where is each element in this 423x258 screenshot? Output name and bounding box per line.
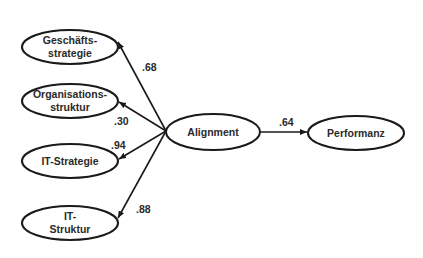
- node-alignment: Alignment: [166, 114, 260, 150]
- node-label: Alignment: [187, 126, 239, 138]
- edge-label-geschaeftsstrategie: .68: [142, 61, 157, 73]
- node-performanz: Performanz: [308, 116, 404, 150]
- node-label: Organisations-: [33, 88, 108, 100]
- edge-label-performanz: .64: [279, 116, 294, 128]
- path-diagram: .68 .30 .94 .88 .64 Geschäfts- strategie…: [0, 0, 423, 258]
- edge-label-it-strategie: .94: [111, 139, 126, 151]
- node-label: strategie: [48, 47, 92, 59]
- node-it-strategie: IT-Strategie: [22, 144, 118, 178]
- node-label: IT-: [64, 210, 77, 222]
- edge-label-organisationsstruktur: .30: [114, 115, 129, 127]
- node-label: Struktur: [50, 223, 91, 235]
- node-label: Performanz: [327, 127, 385, 139]
- node-organisationsstruktur: Organisations- struktur: [22, 84, 118, 118]
- node-label: Geschäfts-: [43, 34, 98, 46]
- node-geschaeftsstrategie: Geschäfts- strategie: [22, 30, 118, 64]
- node-label: IT-Strategie: [41, 155, 98, 167]
- edge-label-it-struktur: .88: [136, 203, 151, 215]
- node-label: struktur: [50, 101, 90, 113]
- node-it-struktur: IT- Struktur: [22, 206, 118, 240]
